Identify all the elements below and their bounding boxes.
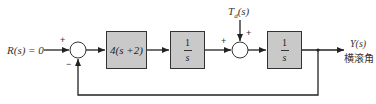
integrator-2-fraction: 1 s [281, 38, 289, 63]
sum2-top-plus-sign: + [246, 29, 251, 38]
input-label: R(s) = 0 [7, 45, 44, 56]
integrator-2-denominator: s [283, 53, 287, 63]
output-label: Y(s) [350, 39, 366, 49]
sum1-minus-sign: − [66, 60, 71, 69]
disturbance-label: Td(s) [228, 6, 249, 20]
sum1-plus-sign: + [60, 36, 65, 45]
integrator-block-2: 1 s [267, 31, 302, 69]
integrator-block-1: 1 s [170, 31, 205, 69]
controller-block: 4(s +2) [106, 31, 147, 69]
output-caption: 横滚角 [344, 54, 374, 64]
integrator-1-denominator: s [186, 53, 190, 63]
sum2-left-plus-sign: + [221, 37, 226, 46]
integrator-1-numerator: 1 [185, 38, 190, 48]
controller-transfer-function: 4(s +2) [110, 44, 143, 56]
integrator-1-fraction: 1 s [184, 38, 192, 63]
disturbance-argument: (s) [238, 5, 250, 17]
integrator-2-numerator: 1 [282, 38, 287, 48]
